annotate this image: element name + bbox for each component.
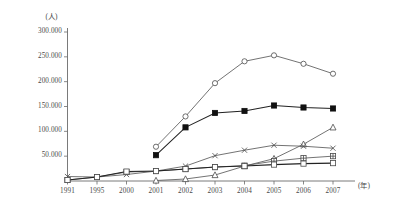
series-open-circle bbox=[153, 53, 335, 150]
x-tick-label: 2002 bbox=[171, 187, 201, 195]
data-point-filled-square bbox=[242, 108, 247, 113]
data-point-open-square bbox=[242, 164, 247, 169]
x-tick-label: 2006 bbox=[289, 187, 319, 195]
y-tick-label: 100.000 bbox=[14, 126, 62, 134]
data-point-filled-square bbox=[301, 105, 306, 110]
x-tick-label: 2007 bbox=[318, 187, 348, 195]
data-point-open-square bbox=[212, 164, 217, 169]
y-tick-label: 300.000 bbox=[14, 27, 62, 35]
series-open-triangle bbox=[153, 124, 336, 183]
data-point-open-square bbox=[94, 174, 99, 179]
series-line-open-square bbox=[68, 163, 334, 180]
data-point-open-square bbox=[301, 161, 306, 166]
y-tick-label: 150.000 bbox=[14, 102, 62, 110]
x-tick-label: 1995 bbox=[82, 187, 112, 195]
data-point-open-circle bbox=[153, 144, 158, 149]
data-point-open-square bbox=[271, 162, 276, 167]
data-point-filled-square bbox=[212, 110, 217, 115]
data-point-filled-square bbox=[183, 125, 188, 130]
x-tick-label: 2005 bbox=[259, 187, 289, 195]
series-line-cross bbox=[68, 145, 334, 177]
line-chart: (人) (年) 50.000100.000150.000200.000250.0… bbox=[0, 0, 393, 214]
data-point-open-circle bbox=[212, 81, 217, 86]
data-point-plus-square bbox=[301, 156, 306, 161]
data-point-open-circle bbox=[301, 61, 306, 66]
series-filled-square bbox=[153, 103, 335, 158]
data-point-open-triangle bbox=[330, 124, 336, 130]
series-group bbox=[65, 53, 336, 183]
data-point-filled-square bbox=[330, 106, 335, 111]
x-tick-label: 2003 bbox=[200, 187, 230, 195]
data-point-open-square bbox=[65, 177, 70, 182]
data-point-open-square bbox=[153, 168, 158, 173]
data-point-open-circle bbox=[330, 71, 335, 76]
data-point-open-circle bbox=[183, 114, 188, 119]
data-point-open-square bbox=[183, 166, 188, 171]
series-line-open-triangle bbox=[156, 127, 333, 180]
data-point-filled-square bbox=[153, 153, 158, 158]
data-point-open-circle bbox=[242, 59, 247, 64]
x-tick-label: 2001 bbox=[141, 187, 171, 195]
series-line-open-circle bbox=[156, 55, 333, 146]
data-point-open-square bbox=[124, 169, 129, 174]
y-tick-label: 50.000 bbox=[14, 151, 62, 159]
data-point-plus-square bbox=[330, 154, 335, 159]
y-tick-label: 200.000 bbox=[14, 77, 62, 85]
x-tick-label: 1991 bbox=[53, 187, 83, 195]
x-tick-label: 2004 bbox=[230, 187, 260, 195]
data-point-open-square bbox=[330, 161, 335, 166]
x-tick-label: 2000 bbox=[112, 187, 142, 195]
series-open-square bbox=[65, 161, 336, 183]
axes-group bbox=[64, 28, 355, 185]
data-point-open-circle bbox=[271, 53, 276, 58]
y-tick-label: 250.000 bbox=[14, 52, 62, 60]
data-point-filled-square bbox=[271, 103, 276, 108]
